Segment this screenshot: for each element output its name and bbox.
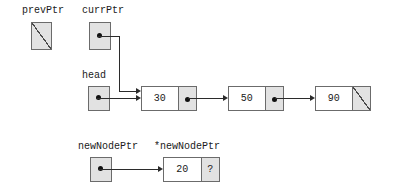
node-link-cell-null (352, 87, 370, 110)
curr-ptr-connector-h2 (119, 91, 137, 92)
new-node-link-cell: ? (201, 158, 219, 181)
node1-to-node2-line (188, 98, 224, 99)
new-node: 20 ? (163, 157, 220, 182)
deref-new-node-ptr-label: *newNodePtr (154, 141, 220, 153)
curr-ptr-connector-v (119, 36, 120, 91)
new-node-data: 20 (164, 158, 201, 181)
node2-to-node3-line (275, 98, 311, 99)
prev-ptr-label: prevPtr (22, 5, 64, 17)
node-data: 50 (229, 87, 265, 110)
curr-ptr-connector-h1 (97, 36, 120, 37)
list-node: 90 (315, 86, 371, 111)
new-node-ptr-label: newNodePtr (78, 141, 138, 153)
head-connector (96, 98, 137, 99)
node-data: 90 (316, 87, 352, 110)
node-data: 30 (142, 87, 178, 110)
head-label: head (82, 70, 106, 82)
curr-ptr-label: currPtr (82, 5, 124, 17)
new-node-ptr-connector (98, 169, 159, 170)
linked-list-diagram: prevPtr currPtr head 30 50 90 (0, 0, 394, 195)
prev-ptr-box (31, 22, 52, 50)
